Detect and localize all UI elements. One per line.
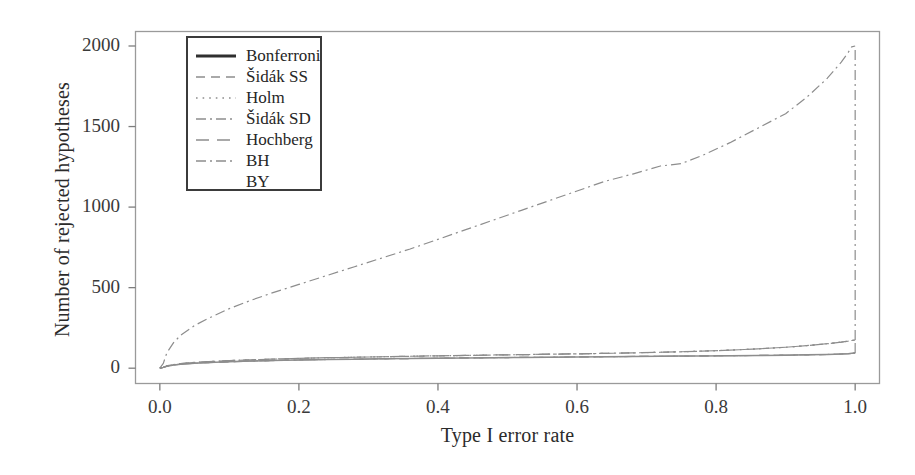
legend-line-sample-icon: [195, 92, 237, 104]
legend-item-label: Šidák SD: [246, 110, 311, 127]
x-tick-label: 0.8: [676, 396, 756, 418]
legend-item-label: BH: [246, 152, 270, 169]
x-tick-label: 0.0: [120, 396, 200, 418]
series-line-id-k-sd: [160, 340, 855, 368]
chart-legend[interactable]: BonferroniŠidák SSHolmŠidák SDHochbergBH…: [186, 36, 322, 191]
series-line-holm: [160, 340, 855, 368]
figure-container: 0500100015002000 0.00.20.40.60.81.0 Type…: [0, 0, 915, 475]
y-axis-ticks: [129, 46, 136, 368]
legend-item-bh[interactable]: BH: [188, 150, 320, 171]
legend-item-label: Holm: [246, 89, 285, 106]
legend-line-sample-icon: [195, 155, 237, 167]
legend-line-sample-icon: [195, 71, 237, 83]
legend-line-sample-icon: [195, 50, 237, 62]
x-tick-label: 0.2: [259, 396, 339, 418]
legend-line-sample-icon: [195, 134, 237, 146]
legend-item-hochberg[interactable]: Hochberg: [188, 129, 320, 150]
legend-item-id-k-ss[interactable]: Šidák SS: [188, 66, 320, 87]
y-axis-title: Number of rejected hypotheses: [51, 40, 74, 380]
legend-item-holm[interactable]: Holm: [188, 87, 320, 108]
legend-line-sample-icon: [195, 113, 237, 125]
x-tick-label: 0.4: [398, 396, 478, 418]
legend-item-id-k-sd[interactable]: Šidák SD: [188, 108, 320, 129]
x-tick-label: 0.6: [537, 396, 617, 418]
legend-item-label: BY: [246, 173, 270, 190]
series-line-hochberg: [160, 340, 855, 368]
legend-item-by[interactable]: BY: [188, 171, 320, 192]
legend-item-label: Bonferroni: [246, 47, 321, 64]
legend-item-label: Hochberg: [246, 131, 313, 148]
x-axis-title: Type I error rate: [135, 424, 880, 447]
legend-item-label: Šidák SS: [246, 68, 308, 85]
legend-line-sample-icon: [195, 176, 237, 188]
x-axis-ticks: [160, 384, 855, 391]
x-tick-label: 1.0: [815, 396, 895, 418]
legend-item-bonferroni[interactable]: Bonferroni: [188, 45, 320, 66]
